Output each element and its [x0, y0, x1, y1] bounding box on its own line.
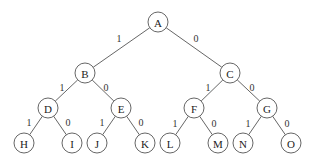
edge-D-H	[30, 116, 43, 135]
edge-F-M	[200, 116, 213, 135]
tree-node-L: L	[160, 133, 180, 153]
node-label: I	[70, 138, 74, 150]
edge-C-F	[201, 80, 223, 101]
edge-label-C-F: 1	[206, 82, 211, 93]
edge-G-N	[249, 116, 262, 135]
tree-node-C: C	[220, 63, 240, 83]
edge-label-A-B: 1	[117, 33, 122, 44]
binary-tree-diagram: 10101010101010 ABCDEFGHIJKLMNO	[0, 0, 310, 165]
edge-label-B-D: 1	[60, 82, 65, 93]
tree-nodes: ABCDEFGHIJKLMNO	[14, 12, 301, 153]
edge-label-D-H: 1	[27, 117, 32, 128]
edge-D-I	[54, 116, 67, 135]
tree-node-H: H	[14, 133, 34, 153]
edge-E-K	[127, 116, 140, 135]
tree-node-G: G	[257, 98, 277, 118]
edge-label-B-E: 0	[104, 82, 109, 93]
node-label: J	[95, 138, 100, 150]
tree-node-E: E	[111, 98, 131, 118]
edge-label-F-M: 0	[212, 118, 217, 129]
node-label: E	[118, 103, 125, 115]
edge-A-B	[93, 28, 150, 68]
tree-node-I: I	[62, 133, 82, 153]
edge-label-E-K: 0	[139, 117, 144, 128]
edge-label-G-N: 1	[246, 118, 251, 129]
edge-label-D-I: 0	[66, 117, 71, 128]
tree-node-A: A	[148, 12, 168, 32]
node-label: G	[263, 103, 271, 115]
edge-label-E-J: 1	[100, 117, 105, 128]
edge-C-G	[237, 80, 259, 101]
node-label: M	[213, 138, 223, 150]
node-label: L	[167, 138, 174, 150]
node-label: N	[239, 138, 247, 150]
edge-label-G-O: 0	[285, 118, 290, 129]
node-label: C	[226, 68, 233, 80]
edge-label-F-L: 1	[173, 118, 178, 129]
node-label: A	[154, 17, 162, 29]
tree-node-O: O	[281, 133, 301, 153]
node-label: O	[287, 138, 295, 150]
node-label: H	[20, 138, 28, 150]
edge-label-A-C: 0	[194, 33, 199, 44]
tree-node-D: D	[38, 98, 58, 118]
tree-node-J: J	[87, 133, 107, 153]
tree-node-B: B	[75, 63, 95, 83]
edge-F-L	[176, 116, 189, 135]
tree-node-K: K	[135, 133, 155, 153]
tree-node-M: M	[208, 133, 228, 153]
tree-node-F: F	[184, 98, 204, 118]
tree-edge-labels: 10101010101010	[27, 33, 290, 129]
tree-node-N: N	[233, 133, 253, 153]
edge-E-J	[103, 116, 116, 135]
edge-label-C-G: 0	[250, 82, 255, 93]
node-label: D	[44, 103, 52, 115]
edge-G-O	[273, 116, 286, 135]
node-label: F	[191, 103, 197, 115]
node-label: K	[141, 138, 149, 150]
node-label: B	[81, 68, 88, 80]
